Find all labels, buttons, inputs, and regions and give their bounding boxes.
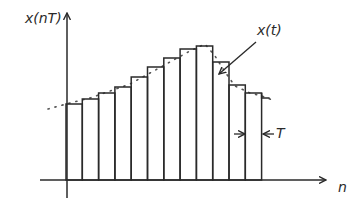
signal-label: x(t) [257,23,282,37]
sample-bar [148,67,164,180]
x-axis-label: n [338,180,347,194]
sample-bar [66,104,82,180]
sample-bar [99,93,115,180]
sample-bar [196,46,212,180]
sample-bar [213,62,229,180]
period-label: T [276,126,285,140]
y-axis-label: x(nT) [25,11,62,25]
sample-bar [164,58,180,180]
sample-hold-bars [66,46,270,180]
sample-hold-diagram [0,0,361,206]
signal-annotation-arrow [219,42,256,74]
sample-bar [245,93,261,180]
sample-bar [82,99,98,180]
sample-bar [115,87,131,180]
sample-bar [131,77,147,180]
sample-bar [229,85,245,180]
sample-bar [180,49,196,180]
